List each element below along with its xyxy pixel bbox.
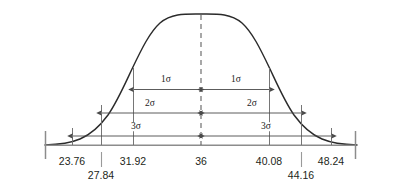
label-pos-2-sigma: 2σ <box>245 99 260 109</box>
axis-label-23-76: 23.76 <box>59 156 85 167</box>
label-pos-1-sigma: 1σ <box>229 75 244 85</box>
sigma-tick-lines <box>73 68 332 145</box>
axis-label-44-16: 44.16 <box>288 170 314 181</box>
label-neg-1-sigma: 1σ <box>159 75 174 85</box>
axis-label-31-92: 31.92 <box>120 156 146 167</box>
normal-distribution-figure: 1σ 1σ 2σ 2σ 3σ 3σ 23.76 31.92 36 40.08 4… <box>0 0 400 194</box>
label-pos-3-sigma: 3σ <box>259 122 274 132</box>
axis-label-27-84: 27.84 <box>88 170 114 181</box>
axis-label-40-08: 40.08 <box>256 156 282 167</box>
sigma-arrows <box>73 90 331 137</box>
label-neg-2-sigma: 2σ <box>143 99 158 109</box>
axis-label-36: 36 <box>195 156 207 167</box>
label-neg-3-sigma: 3σ <box>129 122 144 132</box>
axis-label-48-24: 48.24 <box>318 156 344 167</box>
